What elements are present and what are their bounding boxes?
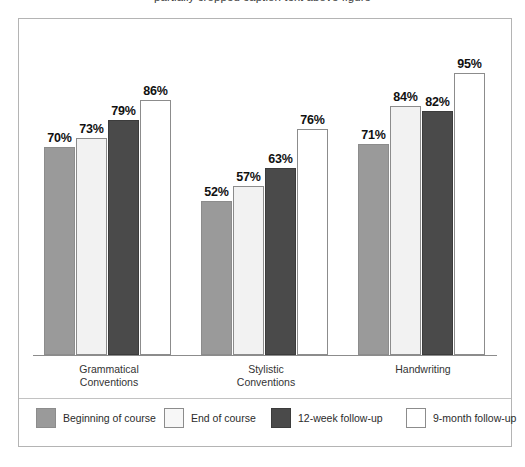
- category-axis-line: [33, 355, 497, 356]
- bar-beginning-of-course: [44, 147, 75, 355]
- figure-frame: 70% 73% 79% 86% 52% 57%: [18, 18, 512, 447]
- legend-swatch-icon: [271, 408, 291, 428]
- legend-item-end-of-course: End of course: [164, 408, 256, 428]
- legend-swatch-icon: [406, 408, 426, 428]
- bar-end-of-course: [390, 106, 421, 355]
- bar-value-label: 52%: [195, 185, 238, 199]
- category-label-line: Grammatical: [29, 363, 189, 376]
- bar-value-label: 95%: [448, 57, 491, 71]
- category-label-line: Handwriting: [343, 363, 503, 376]
- bar-group-grammatical-conventions: 70% 73% 79% 86%: [44, 19, 174, 355]
- legend-label: 9-month follow-up: [433, 412, 516, 424]
- cropped-caption-text: partially cropped caption text above fig…: [0, 0, 525, 5]
- bar-end-of-course: [76, 138, 107, 355]
- bar-value-label: 71%: [352, 128, 395, 142]
- bar-value-label: 79%: [102, 104, 145, 118]
- bar-value-label: 73%: [70, 122, 113, 136]
- category-label-grammatical-conventions: Grammatical Conventions: [29, 363, 189, 388]
- legend-label: End of course: [191, 412, 256, 424]
- category-label-line: Conventions: [186, 376, 346, 389]
- legend-item-9-month-follow-up: 9-month follow-up: [406, 408, 516, 428]
- bar-value-label: 76%: [291, 113, 334, 127]
- bar-value-label: 86%: [134, 84, 177, 98]
- bar-group-stylistic-conventions: 52% 57% 63% 76%: [201, 19, 331, 355]
- bar-12-week-follow-up: [108, 120, 139, 355]
- legend-item-beginning-of-course: Beginning of course: [36, 408, 156, 428]
- legend-item-12-week-follow-up: 12-week follow-up: [271, 408, 383, 428]
- bar-value-label: 63%: [259, 152, 302, 166]
- bar-end-of-course: [233, 186, 264, 355]
- plot-area: 70% 73% 79% 86% 52% 57%: [19, 19, 513, 359]
- chart-legend: Beginning of course End of course 12-wee…: [19, 408, 511, 436]
- legend-swatch-icon: [36, 408, 56, 428]
- bar-group-handwriting: 71% 84% 82% 95%: [358, 19, 488, 355]
- bar-12-week-follow-up: [422, 111, 453, 355]
- legend-label: Beginning of course: [63, 412, 156, 424]
- legend-divider: [19, 398, 511, 399]
- bar-beginning-of-course: [201, 201, 232, 355]
- bar-value-label: 82%: [416, 95, 459, 109]
- bar-9-month-follow-up: [297, 129, 328, 355]
- category-label-line: Stylistic: [186, 363, 346, 376]
- category-label-line: Conventions: [29, 376, 189, 389]
- bar-12-week-follow-up: [265, 168, 296, 355]
- legend-label: 12-week follow-up: [298, 412, 383, 424]
- bar-9-month-follow-up: [454, 73, 485, 355]
- legend-swatch-icon: [164, 408, 184, 428]
- category-label-stylistic-conventions: Stylistic Conventions: [186, 363, 346, 388]
- bar-9-month-follow-up: [140, 100, 171, 355]
- category-label-handwriting: Handwriting: [343, 363, 503, 376]
- bar-value-label: 57%: [227, 170, 270, 184]
- bar-beginning-of-course: [358, 144, 389, 355]
